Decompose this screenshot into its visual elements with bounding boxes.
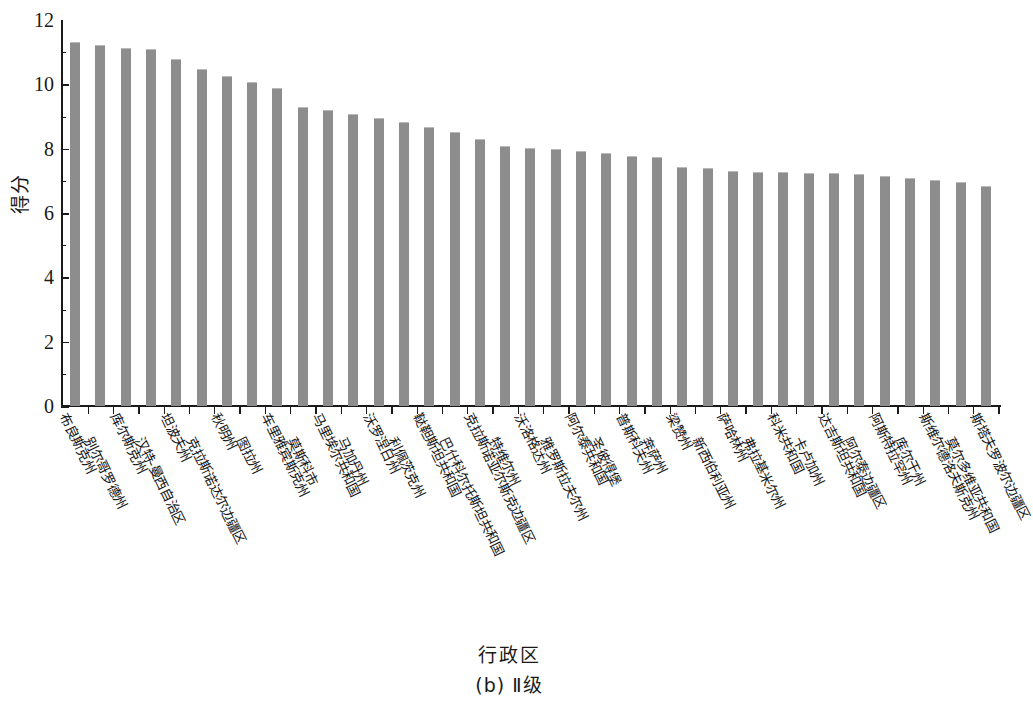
plot-area [61, 20, 1001, 406]
bar [247, 82, 257, 406]
bar [880, 176, 890, 406]
bar [272, 88, 282, 406]
bar [171, 59, 181, 406]
bar [121, 48, 131, 406]
bar [956, 182, 966, 406]
bar [829, 173, 839, 406]
bar [627, 156, 637, 406]
bar [222, 76, 232, 406]
bar [905, 178, 915, 406]
bar [399, 122, 409, 406]
bar [95, 45, 105, 406]
bar [576, 151, 586, 406]
bar [424, 127, 434, 406]
bar [475, 139, 485, 406]
bar [146, 49, 156, 406]
y-tick-label: 12 [20, 10, 54, 30]
y-tick-label: 10 [20, 74, 54, 94]
bar [601, 153, 611, 407]
x-tick-label: 克拉斯诺达尔边疆区 [183, 435, 247, 546]
x-tick-label: 秋明州 [208, 411, 237, 452]
bar [677, 167, 687, 406]
x-axis-tick-labels: 布良斯克州别尔哥罗德州库尔斯克州汉特-曼西自治区坦波夫州克拉斯诺达尔边疆区秋明州… [0, 405, 1018, 635]
bar [500, 146, 510, 406]
x-tick-label: 梁赞州 [664, 411, 693, 452]
bar [652, 157, 662, 406]
x-tick-label: 图拉州 [234, 435, 263, 476]
bar [450, 132, 460, 406]
bar [323, 110, 333, 406]
y-tick-label: 8 [20, 139, 54, 159]
bar [348, 114, 358, 406]
x-axis-title: 行政区 [0, 640, 1018, 667]
bar [703, 168, 713, 406]
y-tick-label: 6 [20, 203, 54, 223]
x-tick-label: 坦波夫州 [158, 411, 193, 464]
bar [778, 172, 788, 406]
figure-caption: (b) Ⅱ级 [0, 670, 1018, 697]
bar [374, 118, 384, 406]
bar [70, 42, 80, 406]
bar [197, 69, 207, 406]
bar [753, 172, 763, 406]
bar [981, 186, 991, 406]
y-tick-label: 2 [20, 332, 54, 352]
bar [728, 171, 738, 406]
bar [525, 148, 535, 406]
bar [930, 180, 940, 406]
bar [298, 107, 308, 406]
bar [804, 173, 814, 406]
bar [854, 174, 864, 406]
y-tick-label: 4 [20, 267, 54, 287]
bar [551, 149, 561, 406]
